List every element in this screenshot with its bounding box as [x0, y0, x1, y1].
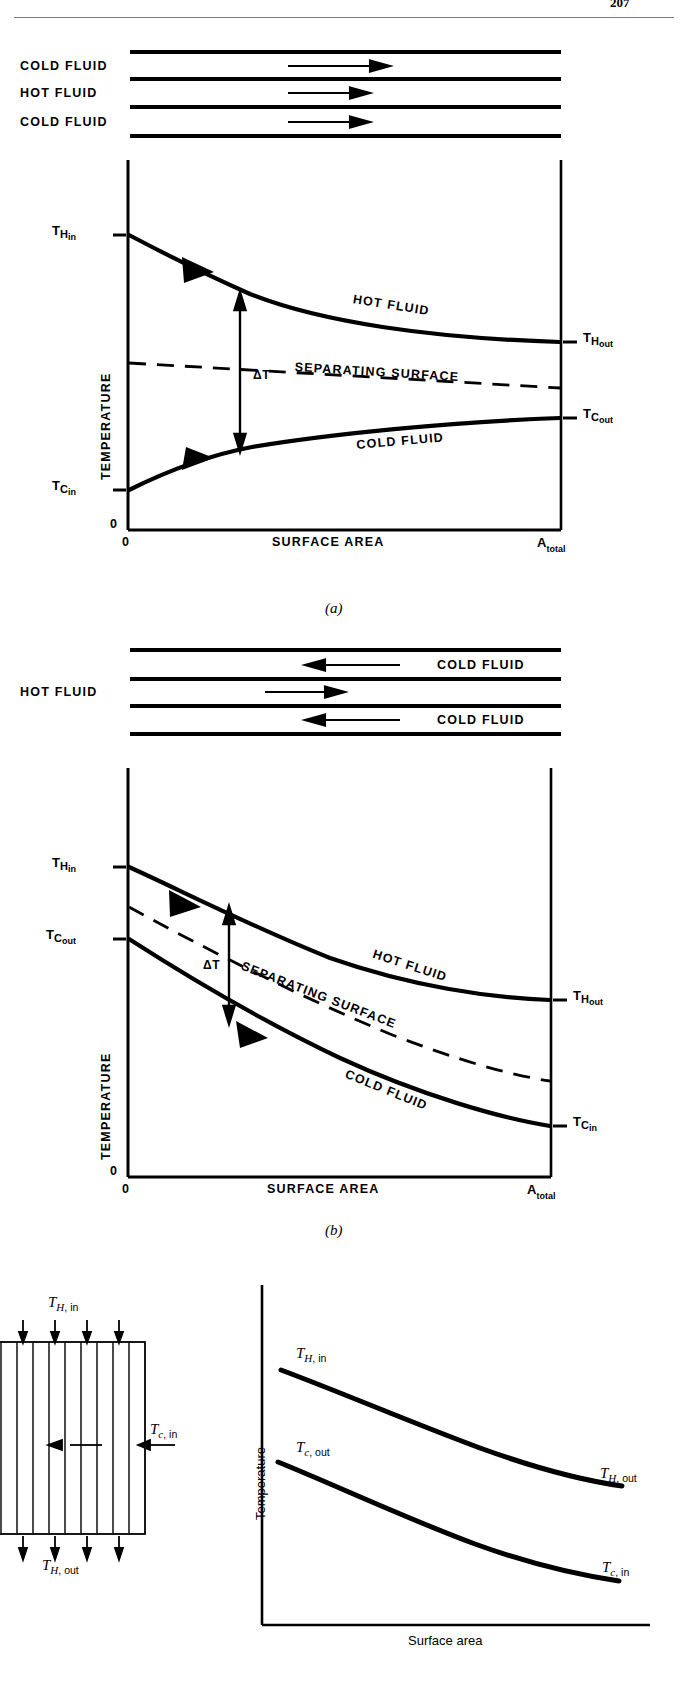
crossflow-bottom-label: TH, out [42, 1558, 79, 1576]
cold-inlet-arrow-head [48, 1440, 62, 1450]
flow-arrow-head [325, 687, 345, 698]
label-hot-outlet: TH, out [600, 1466, 637, 1484]
flow-arrow-head [305, 660, 325, 671]
label-hot-inlet: TH, in [296, 1346, 326, 1364]
flow-arrow-head [350, 88, 370, 99]
figure-a-chart: TEMPERATURE THin TCin THout TCout HOT FL… [0, 150, 682, 560]
cold-flow-arrow-head [182, 447, 214, 470]
hot-flow-arrow-head [182, 257, 214, 283]
cold-fluid-curve [129, 939, 550, 1126]
label-hot-outlet: THout [573, 989, 603, 1007]
label-cold-inlet: Tc, in [602, 1560, 629, 1578]
label-cold-inlet: TCin [573, 1115, 597, 1133]
label-cold-outlet: Tc, out [296, 1440, 330, 1458]
figure-c-chart: Temperature Surface area TH, in TH, out … [230, 1270, 682, 1682]
schematic-channel-label-cold-1: COLD FLUID [437, 659, 525, 672]
outlet-arrow-head [83, 1548, 91, 1560]
schematic-channel-label-cold-1: COLD FLUID [20, 60, 108, 73]
figure-a-caption: (a) [325, 600, 343, 617]
figure-page: 207 COLD FLUID HOT FLUID COLD FLUID [0, 0, 682, 1682]
crossflow-top-label: TH, in [48, 1295, 78, 1313]
tube-line [0, 1342, 129, 1534]
y-axis-label: TEMPERATURE [100, 1053, 113, 1160]
cold-fluid-curve [278, 1462, 619, 1581]
schematic-channel-label-cold-2: COLD FLUID [20, 116, 108, 129]
header-rule [14, 17, 674, 18]
page-number: 207 [610, 0, 630, 11]
annotation-delta-t: ΔT [203, 959, 220, 971]
label-cold-outlet: TCout [46, 928, 76, 946]
x-axis-label: Surface area [408, 1634, 482, 1647]
cold-flow-arrow-head [236, 1021, 268, 1048]
hot-fluid-curve [281, 1370, 622, 1486]
y-axis-label: Temperature [254, 1447, 267, 1520]
label-cold-inlet: TCin [52, 479, 76, 497]
y-origin-label: 0 [110, 1165, 118, 1178]
crossflow-core [0, 1342, 145, 1534]
x-tick-end: Atotal [537, 536, 565, 554]
cold-inlet-arrow-head [138, 1440, 150, 1450]
label-cold-outlet: TCout [583, 407, 613, 425]
delta-t-marker [224, 906, 235, 1024]
x-tick-start: 0 [122, 536, 130, 549]
annotation-delta-t: ΔT [253, 369, 270, 381]
crossflow-side-label: Tc, in [150, 1422, 177, 1440]
label-hot-inlet: THin [52, 856, 76, 874]
schematic-channel-label-cold-2: COLD FLUID [437, 714, 525, 727]
outlet-arrow-head [19, 1548, 27, 1560]
x-axis-label: SURFACE AREA [267, 1183, 380, 1196]
hot-fluid-curve [129, 235, 560, 342]
flow-arrow-head [370, 61, 390, 72]
flow-arrow-head [350, 117, 370, 128]
label-hot-inlet: THin [52, 224, 76, 242]
schematic-channel-label-hot: HOT FLUID [20, 686, 97, 699]
crossflow-schematic: TH, in Tc, in TH, out [0, 1290, 200, 1580]
schematic-channel-label-hot: HOT FLUID [20, 87, 97, 100]
counter-flow-schematic: COLD FLUID HOT FLUID COLD FLUID [0, 640, 682, 750]
figure-b-chart: TEMPERATURE THin TCout THout TCin HOT FL… [0, 750, 682, 1220]
x-tick-end: Atotal [527, 1183, 555, 1201]
y-origin-label: 0 [110, 518, 118, 531]
delta-t-marker [235, 292, 246, 452]
flow-arrow-head [305, 715, 325, 726]
parallel-flow-schematic: COLD FLUID HOT FLUID COLD FLUID [0, 40, 682, 150]
x-axis-label: SURFACE AREA [272, 536, 385, 549]
outlet-arrow-head [115, 1548, 123, 1560]
x-tick-start: 0 [122, 1183, 130, 1196]
label-hot-outlet: THout [583, 331, 613, 349]
y-axis-label: TEMPERATURE [100, 373, 113, 480]
figure-b-caption: (b) [325, 1222, 343, 1239]
